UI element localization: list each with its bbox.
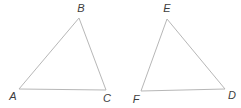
vertex-label-b: B — [77, 3, 84, 14]
vertex-label-f: F — [133, 94, 140, 105]
vertex-label-a: A — [9, 91, 16, 102]
triangles-drawing — [0, 0, 241, 108]
vertex-label-d: D — [228, 90, 236, 101]
vertex-label-c: C — [103, 93, 111, 104]
triangle-fed-outline — [141, 19, 225, 91]
geometry-canvas: A B C F E D — [0, 0, 241, 108]
vertex-label-e: E — [163, 3, 170, 14]
triangle-abc-outline — [19, 18, 106, 90]
